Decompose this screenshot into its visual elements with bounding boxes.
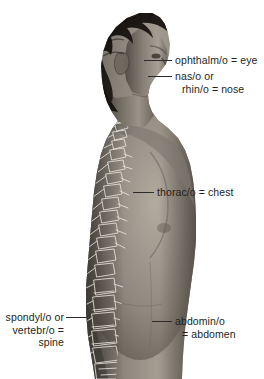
anatomy-figure: ophthalm/o = eye nas/o or rhin/o = nose … — [0, 0, 264, 379]
naso-rhino-nose-label-line-2: rhin/o = nose — [175, 83, 244, 96]
naso-rhino-nose-label-line-1: nas/o or — [175, 70, 244, 83]
spondylo-vertebro-spine-label: spondyl/o or vertebr/o = spine — [6, 311, 64, 349]
spondylo-vertebro-spine-label-line-1: spondyl/o or — [6, 311, 64, 324]
ophthalmo-eye-label: ophthalm/o = eye — [175, 54, 257, 67]
thoraco-chest-label: thorac/o = chest — [157, 186, 234, 199]
ear-feature — [114, 52, 129, 74]
leader-line-eye — [144, 60, 172, 61]
abdomino-abdomen-label: abdomin/o = abdomen — [175, 315, 236, 340]
thoraco-chest-label-line-1: thorac/o = chest — [157, 186, 234, 199]
ophthalmo-eye-label-line-1: ophthalm/o = eye — [175, 54, 257, 67]
leader-line-abdomen — [152, 321, 172, 322]
spondylo-vertebro-spine-label-line-2: vertebr/o = — [6, 324, 64, 337]
leader-line-nose — [148, 76, 172, 77]
abdomino-abdomen-label-line-1: abdomin/o — [175, 315, 236, 328]
leader-line-spine — [66, 317, 88, 318]
leader-line-thorax — [133, 192, 154, 193]
naso-rhino-nose-label: nas/o or rhin/o = nose — [175, 70, 244, 95]
abdomino-abdomen-label-line-2: = abdomen — [175, 328, 236, 341]
eye-feature — [152, 53, 161, 58]
spondylo-vertebro-spine-label-line-3: spine — [6, 336, 64, 349]
